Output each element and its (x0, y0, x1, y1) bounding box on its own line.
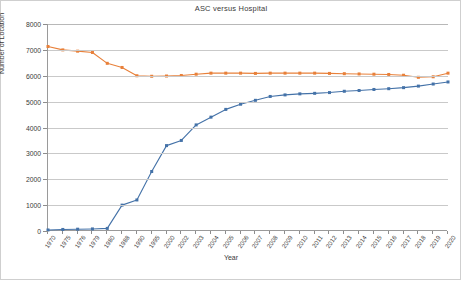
data-point (91, 227, 94, 230)
x-tick-label: 2011 (310, 234, 323, 249)
x-tick-mark (269, 231, 270, 234)
data-point (135, 198, 138, 201)
x-tick-mark (106, 231, 107, 234)
x-tick-label: 2019 (428, 234, 442, 249)
y-tick-label: 8000 (26, 21, 41, 28)
y-tick-label: 3000 (26, 150, 41, 157)
y-tick-mark (43, 205, 47, 206)
x-tick-mark (225, 231, 226, 234)
x-tick-mark (328, 231, 329, 234)
x-tick-label: 2013 (339, 234, 353, 249)
y-axis-title: Number of Location (0, 13, 5, 74)
data-point (106, 62, 109, 65)
data-point (447, 80, 450, 83)
plot-area (47, 24, 447, 231)
y-tick-mark (43, 50, 47, 51)
x-tick-mark (180, 231, 181, 234)
data-point (239, 103, 242, 106)
x-tick-label: 2008 (265, 234, 279, 249)
data-point (239, 72, 242, 75)
data-point (402, 86, 405, 89)
x-tick-label: 2012 (325, 234, 339, 249)
x-tick-mark (373, 231, 374, 234)
data-point (209, 72, 212, 75)
x-tick-label: 2003 (191, 234, 205, 249)
gridline (48, 24, 448, 25)
x-tick-label: 1976 (73, 234, 87, 249)
gridline (48, 76, 448, 77)
x-tick-mark (358, 231, 359, 234)
gridline (48, 153, 448, 154)
x-tick-label: 2007 (251, 234, 265, 249)
x-tick-mark (77, 231, 78, 234)
x-tick-label: 2006 (236, 234, 250, 249)
x-tick-mark (136, 231, 137, 234)
x-tick-mark (447, 231, 448, 234)
data-point (165, 144, 168, 147)
y-tick-label: 7000 (26, 46, 41, 53)
data-point (298, 92, 301, 95)
data-point (343, 90, 346, 93)
data-point (328, 72, 331, 75)
data-point (224, 108, 227, 111)
data-point (106, 227, 109, 230)
x-tick-label: 2014 (354, 234, 368, 249)
x-tick-mark (121, 231, 122, 234)
x-tick-label: 1980 (102, 234, 116, 249)
x-tick-label: 1979 (88, 234, 102, 249)
data-point (298, 72, 301, 75)
x-tick-mark (166, 231, 167, 234)
x-tick-label: 1970 (43, 234, 57, 249)
y-tick-mark (43, 76, 47, 77)
x-tick-label: 2017 (399, 234, 413, 249)
gridline (48, 50, 448, 51)
data-point (447, 72, 450, 75)
data-point (91, 51, 94, 54)
data-point (284, 72, 287, 75)
x-tick-label: 1988 (117, 234, 131, 249)
x-tick-mark (403, 231, 404, 234)
x-tick-mark (254, 231, 255, 234)
y-tick-label: 6000 (26, 72, 41, 79)
data-point (150, 170, 153, 173)
x-tick-label: 2002 (176, 234, 190, 249)
chart-title: ASC versus Hospital (0, 4, 462, 13)
x-tick-mark (47, 231, 48, 234)
x-tick-label: 2004 (206, 234, 220, 249)
data-point (372, 88, 375, 91)
x-tick-label: 2018 (413, 234, 427, 249)
data-point (47, 45, 50, 48)
data-point (313, 72, 316, 75)
x-tick-label: 1990 (132, 234, 146, 249)
gridline (48, 128, 448, 129)
y-tick-label: 1000 (26, 202, 41, 209)
x-axis-title: Year (0, 254, 462, 261)
data-point (328, 91, 331, 94)
x-tick-mark (91, 231, 92, 234)
x-tick-mark (210, 231, 211, 234)
series-line-asc (48, 82, 448, 230)
y-tick-mark (43, 128, 47, 129)
data-point (180, 139, 183, 142)
x-tick-mark (195, 231, 196, 234)
gridline (48, 102, 448, 103)
y-tick-mark (43, 153, 47, 154)
gridline (48, 205, 448, 206)
x-tick-mark (151, 231, 152, 234)
gridline (48, 179, 448, 180)
x-tick-label: 2009 (280, 234, 294, 249)
y-tick-mark (43, 24, 47, 25)
data-point (387, 87, 390, 90)
x-tick-mark (62, 231, 63, 234)
data-point (195, 123, 198, 126)
x-tick-mark (240, 231, 241, 234)
x-tick-label: 1995 (147, 234, 161, 249)
data-point (358, 89, 361, 92)
y-tick-label: 0 (37, 228, 41, 235)
y-tick-label: 5000 (26, 98, 41, 105)
x-tick-mark (299, 231, 300, 234)
data-point (209, 116, 212, 119)
x-tick-mark (314, 231, 315, 234)
x-tick-label: 1975 (58, 234, 72, 249)
x-tick-label: 2016 (384, 234, 398, 249)
